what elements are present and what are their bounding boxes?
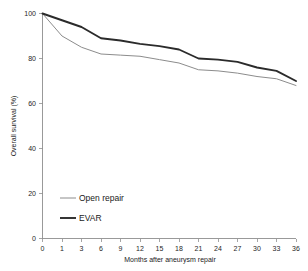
y-tick-label-100: 100: [24, 10, 36, 17]
x-tick-label-15: 15: [156, 245, 164, 252]
legend-label-evar: EVAR: [79, 213, 102, 223]
y-tick-label-80: 80: [28, 55, 36, 62]
y-tick-label-0: 0: [32, 235, 36, 242]
x-axis-title: Months after aneurysm repair: [124, 256, 216, 264]
x-tick-label-18: 18: [175, 245, 183, 252]
y-axis-tick-labels: 0 20 40 60 80 100: [24, 10, 36, 242]
x-tick-label-30: 30: [253, 245, 261, 252]
y-tick-label-20: 20: [28, 190, 36, 197]
legend-label-open-repair: Open repair: [79, 193, 124, 203]
y-axis-title: Overall survival (%): [10, 96, 18, 157]
x-tick-label-0: 0: [41, 245, 45, 252]
chart-canvas: 0 20 40 60 80 100 0136912151821242730333…: [0, 0, 308, 271]
x-tick-label-12: 12: [136, 245, 144, 252]
survival-chart: 0 20 40 60 80 100 0136912151821242730333…: [0, 0, 308, 271]
x-tick-label-24: 24: [214, 245, 222, 252]
y-axis-ticks: [39, 14, 43, 239]
y-tick-label-60: 60: [28, 100, 36, 107]
x-tick-label-6: 6: [99, 245, 103, 252]
x-tick-label-21: 21: [195, 245, 203, 252]
x-tick-label-9: 9: [119, 245, 123, 252]
chart-legend: Open repair EVAR: [60, 193, 124, 223]
x-tick-label-33: 33: [273, 245, 281, 252]
x-axis-ticks: [43, 239, 297, 243]
y-tick-label-40: 40: [28, 145, 36, 152]
x-tick-label-3: 3: [80, 245, 84, 252]
series-line-open-repair: [43, 14, 297, 86]
x-tick-label-36: 36: [292, 245, 300, 252]
x-axis-tick-labels: 01369121518212427303336: [41, 245, 300, 252]
x-tick-label-27: 27: [234, 245, 242, 252]
x-tick-label-1: 1: [60, 245, 64, 252]
